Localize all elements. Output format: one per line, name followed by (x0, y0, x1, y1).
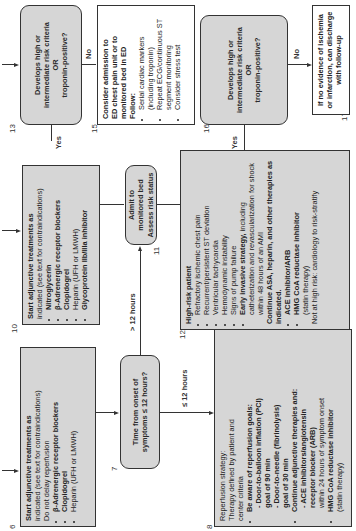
box-8-bullet-text: Continue adjunctive therapies and: (290, 389, 299, 512)
box-10-bullet: Glycoprotein IIb/IIIa inhibitor (80, 171, 89, 310)
box-10-bullet: β-Adrenergic receptor blockers (53, 171, 62, 310)
box-8-bullet: Be aware of reperfusion goals: - Door-to… (245, 335, 290, 512)
box-8-line: center criteria (236, 335, 245, 521)
arrowhead-icon (14, 63, 19, 67)
box-12-title: High-risk patient (184, 156, 193, 324)
box-12-bullet: Signs of pump failure (229, 156, 238, 315)
box-12-continue: Continue ASA, heparin, and other therapi… (265, 156, 283, 324)
edge-label-gt-12-hours: > 12 hours (128, 293, 137, 331)
box-13-text: troponin-positive? (60, 33, 69, 98)
box-8-sub: receptor blocker (ARB) (308, 335, 317, 512)
connector-6-7 (96, 412, 115, 413)
box-17-text: If no evidence of ischemia (316, 11, 325, 109)
edge-label-le-12-hours: ≤ 12 hours (180, 370, 189, 407)
box-8-number: 8 (205, 525, 214, 529)
arrowhead-icon (114, 411, 119, 415)
box-16-text: OR (244, 64, 253, 75)
box-8-sub: - Door-to-balloon inflation (PCI) (254, 335, 263, 512)
box-16-number: 16 (202, 124, 211, 133)
edge-label-yes-13: Yes (54, 136, 63, 149)
edge-label-no-16: No (292, 49, 301, 59)
arrowhead-icon (14, 469, 19, 473)
connector-11-12 (157, 204, 180, 205)
box-6-bullet: β-Adrenergic receptor blockers (51, 353, 60, 512)
edge-label-no-13: No (84, 49, 93, 59)
box-13-text: Develops high or (33, 35, 42, 95)
box-13-risk-decision: Develops high or intermediate risk crite… (20, 5, 82, 125)
box-7-text: Time from onset of (131, 379, 140, 445)
box-15-line: Consider admission to (101, 11, 110, 119)
box-15-number: 15 (90, 124, 99, 133)
box-12-bullet: Recurrent/persistent ST deviation (202, 156, 211, 315)
box-15-bullet: Consider stress test (173, 11, 182, 110)
box-17-text: or infarction, can discharge (325, 11, 334, 109)
arrowhead-icon (138, 246, 142, 251)
box-10-title: Start adjunctive treatments as (26, 171, 35, 319)
flowchart-canvas: 6 Start adjunctive treatments as indicat… (0, 0, 356, 531)
box-15-line: ED chest pain unit or to (110, 11, 119, 119)
box-15-bullet: Repeat ECG/continuous ST segment monitor… (155, 11, 173, 110)
box-6-line: indicated (see text for contraindication… (33, 353, 42, 521)
box-8-bullet: HMG CoA reductase inhibitor (statin ther… (326, 335, 344, 512)
box-16-risk-decision: Develops high or intermediate risk crite… (200, 15, 288, 125)
box-10-number: 10 (10, 324, 19, 333)
box-12-bullet-early-invasive: Early invasive strategy, including cathe… (238, 156, 265, 315)
box-16-text: Develops high or (226, 40, 235, 100)
box-8-reperfusion-strategy: Reperfusion strategy: Therapy defined by… (214, 329, 352, 527)
box-8-bullet: Continue adjunctive therapies and: - ACE… (290, 335, 326, 512)
box-8-note: (statin therapy) (335, 335, 344, 512)
box-6-number: 6 (8, 525, 17, 529)
box-15-bullet: Serial cardiac markers (including tropon… (137, 11, 155, 110)
box-12-number: 12 (178, 330, 187, 339)
box-6-bullet: Heparin (UFH or LMWH) (69, 353, 78, 512)
box-10-bullet: Heparin (UFH or LMWH) (71, 171, 80, 310)
box-7-time-decision: Time from onset of symptoms ≤ 12 hours? (120, 355, 160, 469)
box-8-line: Therapy defined by patient and (227, 335, 236, 521)
box-8-bullet-text: HMG CoA reductase inhibitor (326, 409, 335, 512)
box-12-statin-note: (statin therapy) (301, 156, 310, 324)
box-15-line: monitored bed in ED (119, 11, 128, 119)
box-17-text: with follow-up (334, 11, 343, 109)
box-8-sub: - Door-to-needle (fibrinolysis) (272, 335, 281, 512)
box-8-bullet-text: Be aware of reperfusion goals: (245, 404, 254, 512)
box-11-admit: Admit to monitored bed Assess risk statu… (125, 165, 157, 245)
box-11-text: Assess risk status (146, 173, 155, 238)
box-12-bullet: Hemodynamic instability (220, 156, 229, 315)
box-16-text: intermediate risk criteria (235, 27, 244, 113)
box-6-adjunctive-treatments: Start adjunctive treatments as indicated… (20, 347, 96, 527)
box-16-text: troponin-positive? (253, 38, 262, 103)
box-13-number: 13 (8, 124, 17, 133)
box-8-sub: within 24 hours of symptom onset (317, 335, 326, 512)
box-13-text: intermediate risk criteria (42, 22, 51, 108)
connector-7-8 (160, 412, 210, 413)
box-12-bullet: Refractory ischemic chest pain (193, 156, 202, 315)
connector-13-yes (51, 125, 52, 141)
box-6-bullet: Clopidogrel (60, 353, 69, 512)
box-11-text: Admit to monitored bed (127, 171, 145, 239)
box-12-bullet: ACE inhibitor/ARB (283, 156, 292, 315)
edge-label-yes-16: Yes (230, 136, 239, 149)
connector-7-11 (140, 251, 141, 355)
connector-16-no (288, 64, 308, 65)
box-12-bullet: Ventricular tachycardia (211, 156, 220, 315)
box-7-text: symptoms ≤ 12 hours? (140, 372, 149, 452)
box-17-discharge: If no evidence of ischemia or infarction… (312, 5, 350, 115)
connector-13-no (82, 64, 96, 65)
box-12-early-bold: Early invasive strategy, (238, 233, 247, 315)
box-10-adjunctive-treatments: Start adjunctive treatments as indicated… (22, 165, 100, 325)
box-8-title: Reperfusion strategy: (218, 335, 227, 521)
box-12-footer: Not at high risk: cardiology to risk-str… (310, 156, 319, 324)
box-15-follow: Follow: (128, 11, 137, 119)
box-8-sub: goal of 30 min (281, 335, 290, 512)
connector-10-11 (100, 204, 124, 205)
connector-16-yes (244, 125, 245, 150)
box-7-number: 7 (110, 467, 119, 471)
box-10-bullet: Nitroglycerin (44, 171, 53, 310)
box-11-number: 11 (152, 247, 161, 255)
box-15-consider-admission: Consider admission to ED chest pain unit… (97, 5, 195, 125)
box-12-bullet: HMG CoA reductase inhibitor (292, 156, 301, 315)
box-8-sub: goal of 90 min (263, 335, 272, 512)
box-6-line: Do not delay reperfusion (42, 353, 51, 521)
box-13-text: OR (51, 59, 60, 70)
box-10-line: indicated (see text for contraindication… (35, 171, 44, 319)
